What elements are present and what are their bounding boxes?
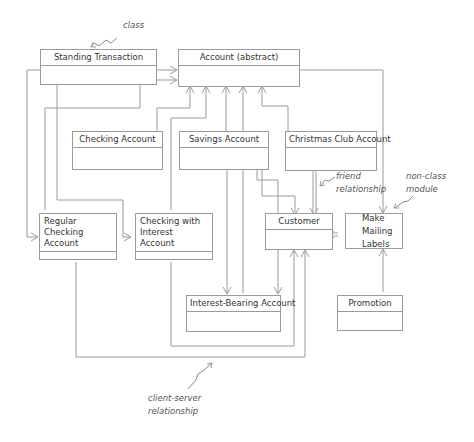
class-checking-account[interactable]: Checking Account	[72, 131, 163, 170]
class-savings-account[interactable]: Savings Account	[179, 131, 269, 170]
module-name: Make Mailing Labels	[346, 212, 392, 251]
class-customer[interactable]: Customer	[265, 213, 333, 250]
class-standing-transaction[interactable]: Standing Transaction	[40, 49, 157, 85]
annotation-client-server-relationship: client-server relationship	[148, 392, 201, 418]
class-christmas-club-account[interactable]: Christmas Club Account	[285, 131, 377, 171]
class-name: Promotion	[338, 296, 402, 312]
class-promotion[interactable]: Promotion	[337, 295, 403, 331]
class-name: Customer	[266, 214, 332, 230]
class-regular-checking-account[interactable]: Regular Checking Account	[39, 213, 117, 260]
module-make-mailing-labels[interactable]: Make Mailing Labels	[345, 213, 403, 249]
annotation-class: class	[123, 19, 144, 32]
annotation-friend-relationship: friend relationship	[336, 170, 386, 196]
class-name: Interest-Bearing Account	[187, 296, 280, 312]
class-checking-with-interest-account[interactable]: Checking with Interest Account	[135, 213, 213, 260]
class-name: Standing Transaction	[41, 50, 156, 66]
class-name: Account (abstract)	[179, 50, 299, 66]
class-interest-bearing-account[interactable]: Interest-Bearing Account	[186, 295, 281, 332]
class-name: Checking with Interest Account	[136, 214, 212, 252]
class-account-abstract[interactable]: Account (abstract)	[178, 49, 300, 87]
class-name: Savings Account	[180, 132, 268, 148]
class-name: Christmas Club Account	[286, 132, 376, 148]
class-diagram: Standing Transaction Account (abstract) …	[0, 0, 474, 442]
class-name: Checking Account	[73, 132, 162, 148]
annotation-non-class-module: non-class module	[406, 170, 446, 196]
class-name: Regular Checking Account	[40, 214, 116, 252]
